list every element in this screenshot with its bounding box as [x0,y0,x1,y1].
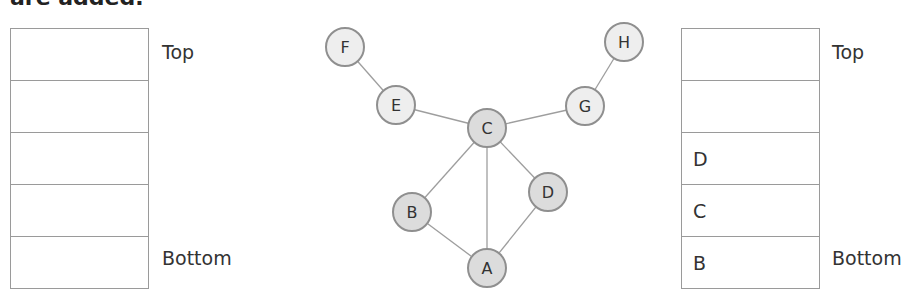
node-b: B [393,193,431,231]
right-stack-bottom-label: Bottom [832,247,902,269]
node-label: E [391,96,401,115]
node-d: D [529,173,567,211]
node-a: A [468,249,506,287]
node-h: H [605,23,643,61]
node-f: F [326,28,364,66]
graph-edges [345,42,624,268]
node-label: G [579,97,591,116]
node-label: C [481,119,492,138]
graph-nodes: ABCDEFGH [326,23,643,287]
node-label: F [340,38,349,57]
node-label: B [407,203,418,222]
right-stack: D C B [681,28,820,289]
right-stack-cell-2: D [682,132,819,184]
right-stack-top-label: Top [832,41,864,63]
node-label: A [482,259,493,278]
right-stack-cell-1 [682,80,819,132]
right-stack-cell-4: B [682,236,819,288]
node-c: C [468,109,506,147]
node-label: D [542,183,554,202]
node-e: E [377,86,415,124]
node-label: H [618,33,630,52]
node-g: G [566,87,604,125]
right-stack-cell-0 [682,29,819,80]
right-stack-cell-3: C [682,184,819,236]
